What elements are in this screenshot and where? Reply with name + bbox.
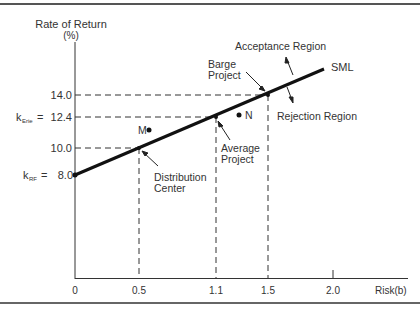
y-tick-10: 10.0 xyxy=(51,142,72,154)
x-tick-1-1: 1.1 xyxy=(209,285,223,296)
x-tick-0: 0 xyxy=(72,285,78,296)
barge-project-label-2: Project xyxy=(208,69,241,81)
k-erie-eq: = xyxy=(37,111,43,123)
rejection-region-label: Rejection Region xyxy=(277,110,357,122)
y-axis-title-line2: (%) xyxy=(63,30,79,41)
sml-line xyxy=(75,69,324,175)
point-n xyxy=(237,113,242,118)
rf-point xyxy=(73,173,78,178)
distribution-center-label-2: Center xyxy=(154,182,186,194)
average-project-label-2: Project xyxy=(221,153,254,165)
k-rf-sub: RF xyxy=(29,176,37,182)
y-tick-8: 8.0 xyxy=(58,169,73,181)
x-axis-title: Risk(b) xyxy=(375,285,407,296)
x-tick-2-0: 2.0 xyxy=(326,285,340,296)
y-tick-12-4: 12.4 xyxy=(51,111,72,123)
y-axis-title-line1: Rate of Return xyxy=(35,18,107,30)
sml-chart: Rate of Return (%) 14.0 12.4 k Erie = 10… xyxy=(0,0,420,310)
point-m-label: M xyxy=(138,124,147,136)
distribution-center-point xyxy=(137,146,141,150)
average-project-point xyxy=(214,115,218,119)
x-tick-0-5: 0.5 xyxy=(132,285,146,296)
point-n-label: N xyxy=(245,109,253,121)
acceptance-region-label: Acceptance Region xyxy=(235,40,326,52)
barge-project-point xyxy=(266,93,270,97)
k-erie-sub: Erie xyxy=(22,118,33,124)
y-tick-14: 14.0 xyxy=(51,89,72,101)
point-m xyxy=(147,128,152,133)
k-rf-eq: = xyxy=(41,169,47,181)
x-tick-1-5: 1.5 xyxy=(261,285,275,296)
sml-label: SML xyxy=(331,61,354,73)
